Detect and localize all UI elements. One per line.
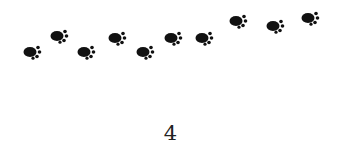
count-number: 4 xyxy=(0,121,341,145)
paw-print-icon xyxy=(228,13,250,29)
paw-print-icon xyxy=(163,30,185,46)
paw-print-icon xyxy=(135,44,157,60)
paw-print-icon xyxy=(265,18,287,34)
paw-print-icon xyxy=(300,10,322,26)
paw-print-icon xyxy=(49,28,71,44)
paw-print-icon xyxy=(194,30,216,46)
paw-print-icon xyxy=(22,44,44,60)
paw-print-icon xyxy=(76,44,98,60)
paw-print-icon xyxy=(107,30,129,46)
